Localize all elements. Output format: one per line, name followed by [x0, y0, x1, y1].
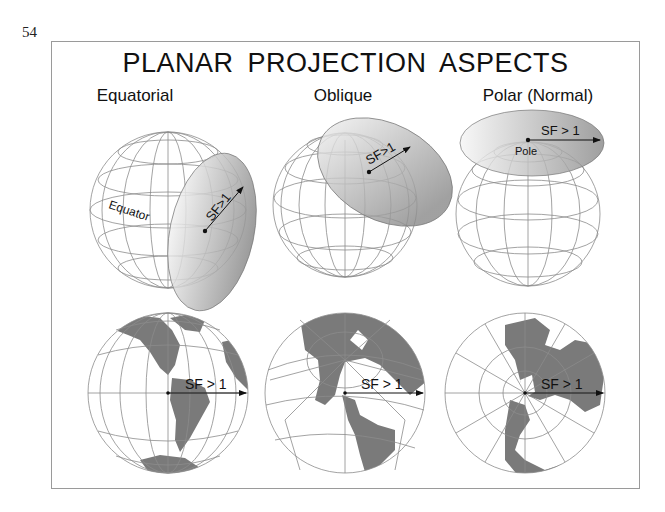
sf-label-oblique-map: SF > 1: [361, 376, 403, 392]
pole-label: Pole: [515, 145, 537, 157]
oblique-globe: SF>1: [273, 96, 471, 277]
polar-globe: SF > 1 Pole: [456, 110, 604, 286]
sf-label-polar-globe: SF > 1: [541, 123, 580, 138]
equatorial-globe: SF>1 Equator: [90, 132, 270, 319]
tangent-plane: [299, 96, 471, 248]
tangent-plane: [154, 145, 269, 319]
equatorial-map: SF > 1: [88, 313, 248, 475]
polar-map: SF > 1: [445, 313, 605, 480]
oblique-map: SF > 1: [265, 312, 428, 473]
sf-label-polar-map: SF > 1: [541, 376, 583, 392]
tangent-plane: [460, 110, 604, 176]
equator-label: Equator: [107, 198, 151, 224]
figure-illustrations: SF>1 Equator SF>1: [0, 0, 665, 512]
sf-label-equatorial-map: SF > 1: [185, 376, 227, 392]
